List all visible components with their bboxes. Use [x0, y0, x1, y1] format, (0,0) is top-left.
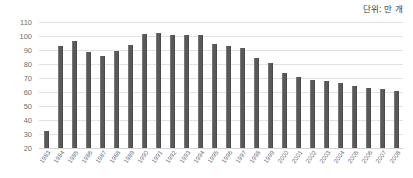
x-axis-tick: 1993: [179, 149, 193, 178]
y-axis-tick-label: 100: [19, 32, 32, 41]
bar: [156, 33, 161, 148]
x-axis-tick: 2008: [389, 149, 403, 178]
bar: [310, 80, 315, 148]
x-axis-tick: 1986: [81, 149, 95, 178]
bar: [268, 63, 273, 148]
bar-slot: [193, 22, 207, 148]
x-axis: 1983198419851986198719881989199019911992…: [39, 149, 403, 178]
bar-slot: [67, 22, 81, 148]
bar: [338, 83, 343, 148]
x-axis-tick: 1994: [193, 149, 207, 178]
x-axis-tick-label: 2003: [318, 149, 332, 164]
bar: [296, 77, 301, 148]
plot-area: [39, 22, 403, 148]
bar: [226, 46, 231, 148]
y-axis-tick-label: 20: [24, 144, 32, 153]
bar: [114, 51, 119, 148]
bar: [366, 88, 371, 148]
bar-slot: [137, 22, 151, 148]
bar: [58, 46, 63, 148]
x-axis-tick-label: 1983: [38, 149, 52, 164]
bar: [212, 44, 217, 148]
x-axis-tick-label: 2008: [388, 149, 402, 164]
bar-slot: [207, 22, 221, 148]
x-axis-tick: 2005: [347, 149, 361, 178]
x-axis-tick-label: 1989: [122, 149, 136, 164]
x-axis-tick: 2004: [333, 149, 347, 178]
bar: [170, 35, 175, 148]
bar-slot: [165, 22, 179, 148]
bar-slot: [235, 22, 249, 148]
bar: [142, 34, 147, 148]
x-axis-tick-label: 2000: [276, 149, 290, 164]
bar-slot: [109, 22, 123, 148]
bar-slot: [263, 22, 277, 148]
x-axis-tick-label: 2005: [346, 149, 360, 164]
bar-slot: [95, 22, 109, 148]
bar-slot: [179, 22, 193, 148]
y-axis-tick-label: 30: [24, 130, 32, 139]
bar-slot: [151, 22, 165, 148]
y-axis: 1101009080706050403020: [0, 22, 36, 148]
bar-slot: [221, 22, 235, 148]
bar-slot: [333, 22, 347, 148]
y-axis-tick-label: 80: [24, 60, 32, 69]
x-axis-tick: 1997: [235, 149, 249, 178]
bar: [128, 45, 133, 148]
x-axis-tick-label: 1987: [94, 149, 108, 164]
bar: [352, 86, 357, 148]
x-axis-tick: 2003: [319, 149, 333, 178]
x-axis-tick-label: 2004: [332, 149, 346, 164]
x-axis-tick-label: 1990: [136, 149, 150, 164]
x-axis-tick: 1991: [151, 149, 165, 178]
y-axis-tick-label: 70: [24, 74, 32, 83]
bar-slot: [123, 22, 137, 148]
x-axis-tick-label: 1997: [234, 149, 248, 164]
x-axis-tick-label: 1996: [220, 149, 234, 164]
bar-slot: [347, 22, 361, 148]
bar: [44, 131, 49, 148]
x-axis-tick: 2002: [305, 149, 319, 178]
x-axis-tick-label: 1986: [80, 149, 94, 164]
bar-slot: [277, 22, 291, 148]
x-axis-tick-label: 2002: [304, 149, 318, 164]
x-axis-tick: 1990: [137, 149, 151, 178]
x-axis-tick: 1989: [123, 149, 137, 178]
bar: [184, 35, 189, 148]
x-axis-tick-label: 1992: [164, 149, 178, 164]
bar-slot: [375, 22, 389, 148]
bar: [324, 81, 329, 148]
bar-slot: [53, 22, 67, 148]
x-axis-tick-label: 1993: [178, 149, 192, 164]
x-axis-tick: 1983: [39, 149, 53, 178]
bar-slot: [249, 22, 263, 148]
bar: [86, 52, 91, 148]
bar-slot: [361, 22, 375, 148]
bar-slot: [81, 22, 95, 148]
x-axis-tick-label: 2001: [290, 149, 304, 164]
x-axis-tick-label: 1994: [192, 149, 206, 164]
x-axis-tick: 2000: [277, 149, 291, 178]
x-axis-tick: 1999: [263, 149, 277, 178]
x-axis-tick-label: 1995: [206, 149, 220, 164]
bar-slot: [389, 22, 403, 148]
bar: [380, 89, 385, 148]
x-axis-tick-label: 1991: [150, 149, 164, 164]
y-axis-tick-label: 40: [24, 116, 32, 125]
bar-slot: [305, 22, 319, 148]
x-axis-tick: 2001: [291, 149, 305, 178]
bar-slot: [291, 22, 305, 148]
y-axis-tick-label: 110: [20, 18, 32, 27]
x-axis-tick: 1988: [109, 149, 123, 178]
x-axis-tick-label: 1999: [262, 149, 276, 164]
bar-slot: [319, 22, 333, 148]
y-axis-tick-label: 90: [24, 46, 32, 55]
x-axis-tick-label: 2007: [374, 149, 388, 164]
bar: [394, 91, 399, 148]
bar: [282, 73, 287, 148]
x-axis-tick: 2007: [375, 149, 389, 178]
x-axis-tick: 1987: [95, 149, 109, 178]
x-axis-tick: 1995: [207, 149, 221, 178]
x-axis-tick-label: 2006: [360, 149, 374, 164]
x-axis-tick-label: 1988: [108, 149, 122, 164]
